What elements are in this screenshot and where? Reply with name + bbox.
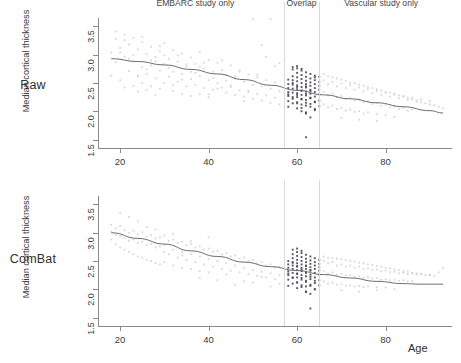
- scatter-series: [287, 248, 320, 310]
- y-tick-label: 1.5: [87, 139, 96, 161]
- region-label-2: Overlap: [287, 0, 317, 8]
- region-divider-line: [284, 2, 285, 148]
- x-tick-label: 40: [203, 156, 214, 167]
- y-tick-label: 3.5: [87, 204, 96, 226]
- region-divider-line: [319, 2, 320, 148]
- x-tick-mark: [297, 148, 298, 153]
- scatter-series: [323, 256, 444, 293]
- y-tick-label: 3.5: [87, 26, 96, 48]
- x-tick-label: 20: [115, 334, 126, 345]
- figure-container: Raw Median cortical thickness 1.52.02.53…: [0, 0, 461, 363]
- y-tick-label: 2.0: [87, 289, 96, 311]
- x-tick-label: 80: [380, 334, 391, 345]
- x-tick-mark: [120, 326, 121, 331]
- y-axis-label-raw: Median cortical thickness: [21, 0, 31, 131]
- trend-line: [111, 59, 443, 113]
- x-tick-mark: [297, 326, 298, 331]
- x-tick-label: 80: [380, 156, 391, 167]
- x-axis-line-combat: [98, 326, 452, 327]
- y-tick-label: 1.5: [87, 317, 96, 339]
- y-tick-label: 3.0: [87, 232, 96, 254]
- scatter-svg-combat: [98, 196, 452, 326]
- y-tick-label: 2.0: [87, 111, 96, 133]
- x-axis-label: Age: [408, 342, 428, 354]
- plot-area-raw: 1.52.02.53.03.520406080EMBARC study only…: [98, 18, 452, 148]
- x-tick-mark: [386, 326, 387, 331]
- region-divider-line: [319, 180, 320, 326]
- panel-raw: Raw Median cortical thickness 1.52.02.53…: [0, 0, 461, 180]
- x-tick-mark: [209, 148, 210, 153]
- y-tick-label: 2.5: [87, 261, 96, 283]
- scatter-svg-raw: [98, 18, 452, 148]
- y-tick-label: 3.0: [87, 54, 96, 76]
- y-axis-label-combat: Median cortical thickness: [21, 177, 31, 317]
- plot-area-combat: 1.52.02.53.03.520406080: [98, 196, 452, 326]
- panel-row-label-raw: Raw: [2, 78, 64, 92]
- y-tick-label: 2.5: [87, 83, 96, 105]
- region-divider-line: [284, 180, 285, 326]
- x-tick-label: 60: [292, 334, 303, 345]
- x-axis-line-raw: [98, 148, 452, 149]
- region-label-3: Vascular study only: [344, 0, 418, 8]
- scatter-series: [287, 65, 320, 138]
- x-tick-mark: [386, 148, 387, 153]
- x-tick-label: 60: [292, 156, 303, 167]
- trend-line: [111, 233, 443, 284]
- panel-row-label-combat: ComBat: [2, 252, 64, 266]
- x-tick-label: 20: [115, 156, 126, 167]
- x-tick-mark: [209, 326, 210, 331]
- x-tick-mark: [120, 148, 121, 153]
- scatter-series: [110, 212, 280, 287]
- panel-combat: ComBat Median cortical thickness 1.52.02…: [0, 180, 461, 363]
- region-label-1: EMBARC study only: [156, 0, 234, 8]
- x-tick-label: 40: [203, 334, 214, 345]
